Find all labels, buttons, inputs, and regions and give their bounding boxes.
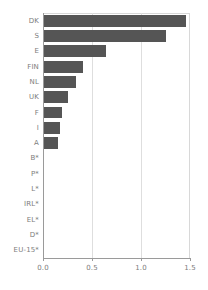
bar-row	[43, 120, 190, 135]
y-axis-tick-label: EU-15*	[0, 246, 39, 254]
bar-row	[43, 44, 190, 59]
bar-row	[43, 13, 190, 28]
x-axis-tick-mark	[92, 258, 93, 261]
y-axis-tick-label: I	[0, 124, 39, 132]
y-axis-tick-label: E	[0, 47, 39, 55]
y-axis-tick-label: DK	[0, 17, 39, 25]
x-axis-tick-mark	[190, 258, 191, 261]
bar-row	[43, 59, 190, 74]
bar-row	[43, 105, 190, 120]
y-axis-tick-label: P*	[0, 170, 39, 178]
bar	[43, 76, 76, 88]
bar-row	[43, 197, 190, 212]
bar-row	[43, 166, 190, 181]
y-axis-tick-label: A	[0, 139, 39, 147]
y-axis-tick-label: EL*	[0, 216, 39, 224]
bar	[43, 137, 58, 149]
bar-row	[43, 90, 190, 105]
bar-chart: DKSEFINNLUKFIAB*P*L*IRL*EL*D*EU-15* 0.00…	[0, 0, 208, 290]
y-axis-tick-label: UK	[0, 93, 39, 101]
y-axis-line	[43, 13, 44, 259]
y-axis-tick-label: NL	[0, 78, 39, 86]
bar-row	[43, 74, 190, 89]
y-axis-tick-label: B*	[0, 154, 39, 162]
x-axis-tick-mark	[43, 258, 44, 261]
bar-row	[43, 136, 190, 151]
bar-row	[43, 151, 190, 166]
bar	[43, 61, 83, 73]
bar	[43, 122, 60, 134]
x-axis-line	[43, 258, 191, 259]
plot-area	[43, 13, 190, 258]
bar-row	[43, 28, 190, 43]
y-axis-tick-label: F	[0, 109, 39, 117]
bar-row	[43, 181, 190, 196]
bar	[43, 15, 186, 27]
bar	[43, 30, 166, 42]
x-axis-tick-label: 0.5	[80, 264, 104, 272]
bar	[43, 107, 62, 119]
bar-row	[43, 227, 190, 242]
bar-series	[43, 13, 190, 258]
bar	[43, 91, 68, 103]
y-axis-tick-label: D*	[0, 231, 39, 239]
y-axis-labels: DKSEFINNLUKFIAB*P*L*IRL*EL*D*EU-15*	[0, 13, 39, 258]
x-axis-tick-mark	[141, 258, 142, 261]
y-axis-tick-label: IRL*	[0, 200, 39, 208]
y-axis-tick-label: FIN	[0, 63, 39, 71]
y-axis-tick-label: L*	[0, 185, 39, 193]
x-axis-tick-label: 1.0	[129, 264, 153, 272]
x-axis-tick-label: 0.0	[31, 264, 55, 272]
bar-row	[43, 243, 190, 258]
y-axis-tick-label: S	[0, 32, 39, 40]
x-axis-tick-label: 1.5	[178, 264, 202, 272]
bar-row	[43, 212, 190, 227]
bar	[43, 45, 106, 57]
